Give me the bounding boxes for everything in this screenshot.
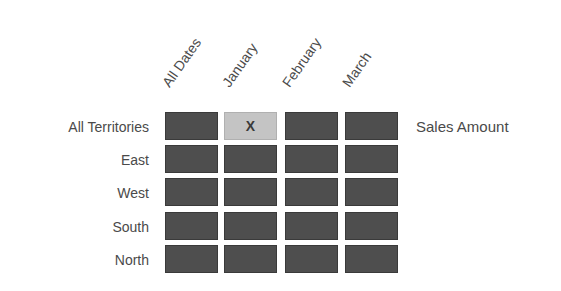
grid-cell [285, 145, 338, 173]
measure-label: Sales Amount [416, 118, 509, 135]
grid-cell [345, 245, 398, 273]
column-label-february: February [279, 35, 324, 90]
row-label-east: East [121, 152, 149, 168]
grid-cell [285, 212, 338, 240]
grid-cell [165, 212, 218, 240]
row-label-west: West [117, 185, 149, 201]
row-label-south: South [112, 219, 149, 235]
grid-cell [165, 178, 218, 206]
row-label-all-territories: All Territories [68, 119, 149, 135]
column-label-march: March [339, 49, 374, 90]
grid-cell [345, 145, 398, 173]
column-label-all-dates: All Dates [159, 35, 204, 90]
grid-cell [285, 112, 338, 140]
grid-cell [224, 245, 277, 273]
grid-cell [165, 145, 218, 173]
grid-cell [345, 178, 398, 206]
grid-cell [165, 245, 218, 273]
grid-cell-selected: X [224, 112, 277, 140]
grid-cell [165, 112, 218, 140]
grid-cell [345, 212, 398, 240]
selection-mark: X [246, 118, 255, 134]
grid-cell [285, 178, 338, 206]
grid-cell [224, 145, 277, 173]
row-label-north: North [115, 252, 149, 268]
column-label-january: January [219, 40, 261, 90]
grid-cell [285, 245, 338, 273]
grid-cell [345, 112, 398, 140]
grid-cell [224, 178, 277, 206]
grid-cell [224, 212, 277, 240]
